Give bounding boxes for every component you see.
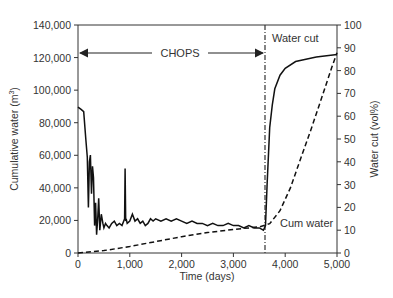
left-y-tick-label: 60,000 [39,149,71,161]
right-y-tick-label: 80 [344,65,356,77]
chops-label: CHOPS [160,47,199,59]
right-y-tick-label: 10 [344,224,356,236]
x-tick-label: 4,000 [272,258,298,270]
right-y-axis-title: Water cut (vol%) [368,100,380,177]
right-y-tick-label: 40 [344,156,356,168]
chops-range-arrow: CHOPS [80,47,263,59]
x-tick-label: 2,000 [168,258,194,270]
water-cut-line [78,55,337,235]
left-y-tick-label: 0 [65,247,71,259]
left-y-tick-label: 80,000 [39,117,71,129]
left-y-axis-title: Cumulative water (m3) [8,87,20,191]
right-y-tick-label: 30 [344,179,356,191]
left-y-tick-label: 100,000 [33,84,71,96]
x-axis-ticks: 01,0002,0003,0004,0005,000 [75,253,350,270]
left-y-axis-ticks: 020,00040,00060,00080,000100,000120,0001… [33,19,78,259]
right-y-tick-label: 20 [344,201,356,213]
right-y-tick-label: 50 [344,133,356,145]
cum-water-label: Cum water [280,217,334,229]
right-y-tick-label: 90 [344,42,356,54]
left-y-tick-label: 140,000 [33,19,71,31]
chart: 01,0002,0003,0004,0005,000 020,00040,000… [0,0,393,298]
x-tick-label: 3,000 [220,258,246,270]
left-y-tick-label: 40,000 [39,182,71,194]
x-tick-label: 1,000 [117,258,143,270]
right-y-axis-ticks: 0102030405060708090100 [337,19,362,259]
right-y-tick-label: 0 [344,247,350,259]
x-tick-label: 0 [75,258,81,270]
water-cut-label: Water cut [272,32,319,44]
right-y-tick-label: 60 [344,110,356,122]
x-tick-label: 5,000 [324,258,350,270]
right-y-tick-label: 70 [344,87,356,99]
right-y-tick-label: 100 [344,19,362,31]
left-y-tick-label: 20,000 [39,214,71,226]
x-axis-title: Time (days) [179,270,234,282]
left-y-tick-label: 120,000 [33,52,71,64]
